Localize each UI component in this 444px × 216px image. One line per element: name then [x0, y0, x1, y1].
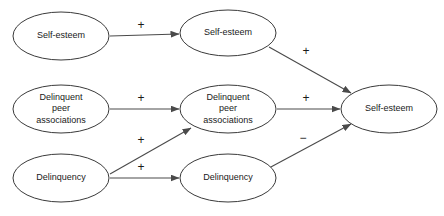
node-label-t2_dpa: associations	[203, 115, 253, 125]
edge-t1_self_esteem-to-t2_self_esteem	[110, 34, 179, 36]
node-t1_self_esteem[interactable]: Self-esteem	[13, 12, 109, 60]
node-t2_dpa[interactable]: Delinquentpeerassociations	[180, 85, 276, 133]
node-label-t2_dpa: peer	[219, 103, 237, 113]
edge-sign-e7: −	[299, 131, 306, 145]
edge-t1_delinquency-to-t2_dpa	[110, 128, 191, 174]
node-label-t3_self_esteem: Self-esteem	[365, 103, 413, 113]
node-t2_delinquency[interactable]: Delinquency	[180, 154, 276, 202]
edge-sign-e4: +	[137, 133, 144, 147]
edge-sign-e1: +	[137, 18, 144, 32]
node-t2_self_esteem[interactable]: Self-esteem	[180, 10, 276, 56]
node-label-t2_dpa: Delinquent	[206, 92, 250, 102]
edge-sign-e6: +	[302, 91, 309, 105]
node-label-t1_delinquency: Delinquency	[36, 172, 86, 182]
node-label-t1_dpa: Delinquent	[39, 92, 83, 102]
path-diagram: Self-esteemDelinquentpeerassociationsDel…	[0, 0, 444, 216]
node-t1_delinquency[interactable]: Delinquency	[13, 154, 109, 202]
node-label-t2_self_esteem: Self-esteem	[204, 27, 252, 37]
node-label-t2_delinquency: Delinquency	[203, 172, 253, 182]
diagram-canvas: Self-esteemDelinquentpeerassociationsDel…	[0, 0, 444, 216]
node-label-t1_self_esteem: Self-esteem	[37, 30, 85, 40]
nodes-layer: Self-esteemDelinquentpeerassociationsDel…	[13, 10, 437, 202]
node-label-t1_dpa: associations	[36, 115, 86, 125]
edge-sign-e5: +	[302, 44, 309, 58]
node-t3_self_esteem[interactable]: Self-esteem	[341, 85, 437, 133]
edge-t2_delinquency-to-t3_self_esteem	[269, 124, 351, 168]
edge-sign-e3: +	[137, 160, 144, 174]
node-label-t1_dpa: peer	[52, 103, 70, 113]
edge-t2_self_esteem-to-t3_self_esteem	[269, 47, 351, 93]
edge-sign-e2: +	[137, 91, 144, 105]
node-t1_dpa[interactable]: Delinquentpeerassociations	[13, 85, 109, 133]
